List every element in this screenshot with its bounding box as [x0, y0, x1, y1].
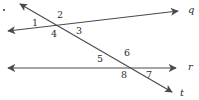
angle-label-1: 1	[32, 18, 38, 28]
figure-canvas	[0, 0, 199, 100]
geometry-figure: q r t 1 2 3 4 5 6 7 8	[0, 0, 199, 100]
line-label-t: t	[180, 88, 184, 98]
angle-label-6: 6	[124, 48, 130, 58]
angle-label-4: 4	[51, 29, 57, 39]
angle-label-8: 8	[121, 70, 127, 80]
angle-label-2: 2	[57, 10, 63, 20]
corner-dot	[3, 9, 5, 11]
angle-label-3: 3	[76, 26, 82, 36]
angle-label-7: 7	[146, 70, 152, 80]
line-label-r: r	[188, 62, 193, 72]
line-label-q: q	[188, 5, 194, 15]
angle-label-5: 5	[97, 54, 103, 64]
